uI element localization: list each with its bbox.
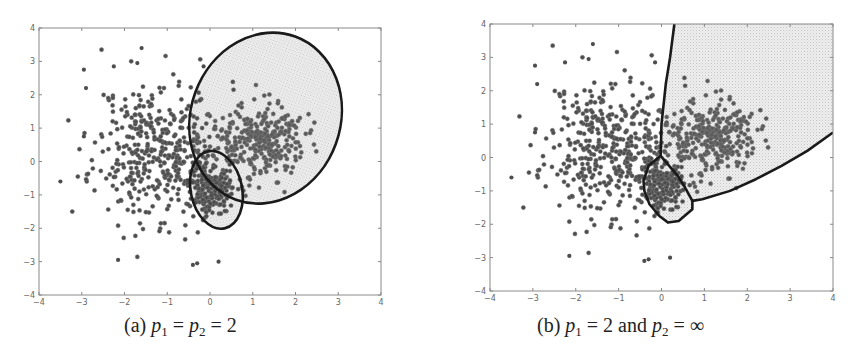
x-tick-label: −1: [613, 294, 625, 303]
y-tick-label: 2: [481, 87, 486, 96]
x-tick-label: −3: [527, 294, 539, 303]
caption-b: (b) p1 = 2 and p2 = ∞: [537, 314, 704, 340]
right-wedge-region: [661, 24, 833, 201]
y-tick-label: 4: [481, 20, 486, 29]
caption-part: p: [652, 314, 662, 336]
y-tick-label: −4: [474, 287, 486, 296]
y-tick-label: 0: [481, 154, 486, 163]
caption-part: (b): [537, 314, 565, 336]
y-tick-label: 1: [481, 120, 486, 129]
caption-part: = 2 and: [582, 314, 652, 336]
x-tick-label: 3: [788, 294, 793, 303]
y-tick-label: 3: [481, 53, 486, 62]
y-tick-label: −2: [474, 220, 486, 229]
caption-part: = ∞: [668, 314, 704, 336]
x-tick-label: −2: [570, 294, 582, 303]
caption-part: p: [565, 314, 575, 336]
y-tick-label: −3: [474, 254, 486, 263]
x-tick-label: 0: [659, 294, 664, 303]
figure-b: −4−3−2−101234−4−3−2−101234 (b) p1 = 2 an…: [0, 0, 852, 358]
scatter-plot-b: −4−3−2−101234−4−3−2−101234: [0, 0, 852, 358]
y-tick-label: −1: [474, 187, 486, 196]
x-tick-label: 4: [830, 294, 835, 303]
x-tick-label: 1: [702, 294, 707, 303]
x-tick-label: 2: [745, 294, 750, 303]
plot-area: [509, 24, 833, 263]
